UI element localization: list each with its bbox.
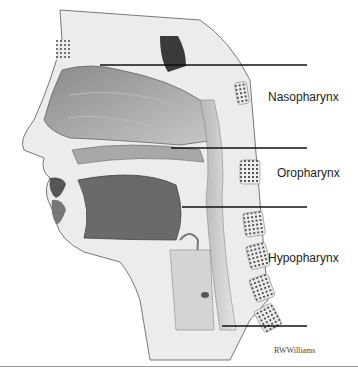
label-oropharynx: Oropharynx (277, 166, 340, 180)
tongue (78, 175, 181, 240)
label-nasopharynx: Nasopharynx (268, 90, 339, 104)
label-hypopharynx: Hypopharynx (268, 251, 339, 265)
larynx (170, 250, 214, 330)
bottom-divider (0, 366, 358, 367)
artist-credit: RWWilliams (274, 346, 315, 355)
anatomy-diagram (0, 0, 358, 371)
